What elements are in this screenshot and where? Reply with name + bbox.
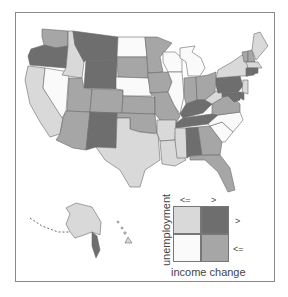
state-hi-island [121, 227, 123, 229]
state-wi[interactable] [163, 52, 182, 72]
state-ct[interactable] [246, 68, 254, 76]
state-de[interactable] [240, 92, 244, 100]
state-ak-panhandle [92, 232, 100, 258]
state-wa[interactable] [42, 29, 68, 48]
state-ar[interactable] [157, 120, 176, 141]
state-or[interactable] [28, 45, 68, 68]
aleutian-islands [30, 218, 70, 232]
state-ak[interactable] [66, 203, 101, 238]
state-sd[interactable] [117, 57, 148, 78]
state-co[interactable] [90, 89, 123, 113]
state-ma[interactable] [246, 62, 262, 68]
legend-x-label: income change [171, 266, 246, 278]
legend-cell-low-unemp-high-income [201, 234, 229, 262]
state-me[interactable] [252, 32, 268, 60]
state-ri[interactable] [254, 68, 258, 74]
legend-y-label: unemployment [160, 194, 172, 266]
state-pa[interactable] [216, 76, 243, 93]
state-hi[interactable] [125, 237, 132, 243]
legend-cell-high-unemp-low-income [173, 206, 201, 234]
state-ks[interactable] [122, 96, 155, 114]
state-nd[interactable] [117, 37, 147, 57]
legend-cell-high-unemp-high-income [201, 206, 229, 234]
state-ia[interactable] [148, 72, 172, 93]
state-ms[interactable] [175, 128, 187, 158]
state-mi[interactable] [180, 46, 205, 76]
legend-x-tick-high: > [211, 195, 216, 205]
state-nj[interactable] [242, 80, 248, 94]
state-nm[interactable] [86, 112, 117, 150]
state-hi-island [124, 232, 126, 234]
legend-y-tick-low: <= [233, 244, 244, 254]
state-wy[interactable] [84, 60, 117, 89]
state-in[interactable] [184, 77, 197, 104]
legend-y-tick-high: > [235, 216, 240, 226]
state-hi-island [117, 221, 119, 223]
legend-cell-low-unemp-low-income [173, 234, 201, 262]
us-map [0, 0, 288, 297]
state-fl[interactable] [190, 155, 235, 192]
legend-x-tick-low: <= [180, 195, 191, 205]
